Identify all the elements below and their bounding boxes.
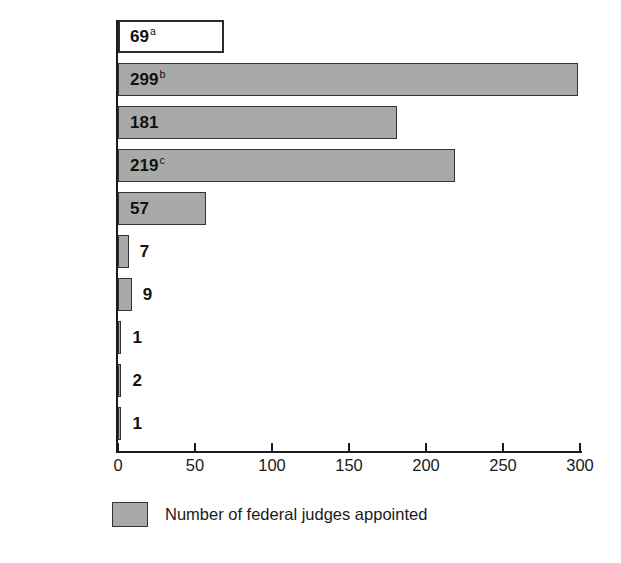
x-tick-0 [117, 443, 119, 452]
bar-value-eisenhower: 1 [132, 407, 141, 440]
x-tick-label-100: 100 [242, 456, 302, 475]
bar-reagan [118, 149, 455, 182]
x-tick-200 [425, 443, 427, 452]
x-tick-100 [271, 443, 273, 452]
bar-nixon [118, 278, 132, 311]
bar-row: Ford7 [118, 235, 580, 268]
footnote-marker-a: a [150, 25, 156, 37]
bar-row: Nixon9 [118, 278, 580, 311]
bar-value-kennedy: 2 [132, 364, 141, 397]
x-tick-150 [348, 443, 350, 452]
bar-row: Clinton299b [118, 63, 580, 96]
footnote-marker-c: c [159, 154, 164, 166]
bar-value-clinton: 299b [130, 63, 165, 96]
x-tick-label-250: 250 [473, 456, 533, 475]
bar-value-ford: 7 [140, 235, 149, 268]
plot-area: Vacancies69aClinton299bBush181Reagan219c… [118, 20, 580, 452]
x-tick-label-0: 0 [88, 456, 148, 475]
legend-label-judges: Number of federal judges appointed [165, 505, 427, 524]
bar-value-johnson: 1 [132, 321, 141, 354]
bar-row: Johnson1 [118, 321, 580, 354]
bar-value-reagan: 219c [130, 149, 165, 182]
bar-value-vacancies: 69a [130, 20, 156, 53]
bar-row: Vacancies69a [118, 20, 580, 53]
bar-clinton [118, 63, 578, 96]
footnote-marker-b: b [159, 68, 165, 80]
x-tick-label-50: 50 [165, 456, 225, 475]
bar-value-carter: 57 [130, 192, 149, 225]
bar-row: Carter57 [118, 192, 580, 225]
bar-row: Kennedy2 [118, 364, 580, 397]
bar-eisenhower [118, 407, 121, 440]
x-tick-label-300: 300 [550, 456, 610, 475]
legend-swatch-judges [112, 502, 148, 527]
bar-row: Bush181 [118, 106, 580, 139]
chart-legend: Number of federal judges appointed [112, 502, 427, 527]
bar-row: Reagan219c [118, 149, 580, 182]
bar-value-bush: 181 [130, 106, 158, 139]
bar-value-nixon: 9 [143, 278, 152, 311]
bar-chart: Vacancies69aClinton299bBush181Reagan219c… [0, 0, 621, 563]
bar-ford [118, 235, 129, 268]
x-tick-50 [194, 443, 196, 452]
x-tick-label-150: 150 [319, 456, 379, 475]
x-tick-300 [579, 443, 581, 452]
x-tick-label-200: 200 [396, 456, 456, 475]
bar-row: Eisenhower1 [118, 407, 580, 440]
bar-johnson [118, 321, 121, 354]
bar-kennedy [118, 364, 121, 397]
x-tick-250 [502, 443, 504, 452]
bar-bush [118, 106, 397, 139]
